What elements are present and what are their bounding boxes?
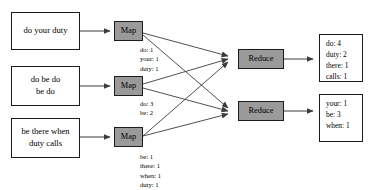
map-node-label: Map <box>121 80 136 91</box>
input-line: be do <box>31 86 61 98</box>
kv-pair: do: 3 <box>140 99 153 108</box>
map-node-2[interactable]: Map <box>114 76 143 96</box>
reduce-node-1[interactable]: Reduce <box>238 49 284 69</box>
kv-pair: be: 1 <box>140 152 161 161</box>
reduce-node-2[interactable]: Reduce <box>238 101 284 121</box>
kv-pair: calls: 1 <box>140 189 161 190</box>
kv-pair: duty: 1 <box>140 64 159 73</box>
kv-pair: there: 1 <box>140 161 161 170</box>
input-line: do your duty <box>24 25 68 37</box>
kv-pair: do: 1 <box>140 45 159 54</box>
input-box-2: do be do be do <box>11 66 80 106</box>
map-node-3[interactable]: Map <box>114 127 143 147</box>
kv-pair: your: 1 <box>140 54 159 63</box>
kv-pair: duty: 2 <box>326 49 356 60</box>
kv-pair: there: 1 <box>326 60 356 71</box>
input-box-3: be there when duty calls <box>11 118 80 158</box>
mapreduce-diagram: do your duty do be do be do be there whe… <box>0 0 368 190</box>
kv-pair: be: 2 <box>140 108 153 117</box>
map-output-list-1: do: 1 your: 1 duty: 1 <box>140 45 159 73</box>
map-node-1[interactable]: Map <box>114 21 143 41</box>
reduce-node-label: Reduce <box>248 53 273 64</box>
reduce-node-label: Reduce <box>248 105 273 116</box>
input-line: do be do <box>31 74 61 86</box>
result-box-2: your: 1 be: 3 when: 1 <box>319 94 363 142</box>
input-line: be there when <box>21 126 69 138</box>
input-box-1: do your duty <box>11 12 80 50</box>
map-node-label: Map <box>121 131 136 142</box>
result-box-1: do: 4 duty: 2 there: 1 calls: 1 <box>319 34 363 82</box>
input-line: duty calls <box>21 138 69 150</box>
kv-pair: do: 4 <box>326 38 356 49</box>
map-output-list-2: do: 3 be: 2 <box>140 99 153 118</box>
kv-pair: calls: 1 <box>326 71 356 82</box>
kv-pair: when: 1 <box>140 171 161 180</box>
map-output-list-3: be: 1 there: 1 when: 1 duty: 1 calls: 1 <box>140 152 161 190</box>
kv-pair: be: 3 <box>326 109 356 120</box>
kv-pair: when: 1 <box>326 120 356 131</box>
map-node-label: Map <box>121 25 136 36</box>
kv-pair: duty: 1 <box>140 180 161 189</box>
kv-pair: your: 1 <box>326 98 356 109</box>
